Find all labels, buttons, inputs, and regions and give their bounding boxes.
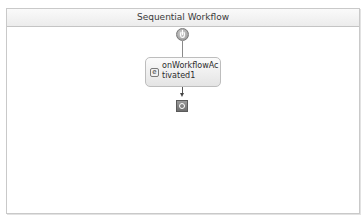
connector-line [182,41,183,57]
activity-label: onWorkflowActivated1 [162,61,220,81]
arrow-down-icon [180,93,184,97]
end-ring-icon [179,103,185,109]
activity-onworkflowactivated[interactable]: e onWorkflowActivated1 [145,57,221,87]
workflow-title: Sequential Workflow [7,9,359,27]
handle-external-event-icon: e [150,68,159,77]
power-tick [182,30,183,35]
sequential-workflow-designer: Sequential Workflow e onWorkflowActivate… [6,8,360,214]
workflow-start-icon[interactable] [176,28,189,41]
workflow-end-icon[interactable] [176,100,188,112]
